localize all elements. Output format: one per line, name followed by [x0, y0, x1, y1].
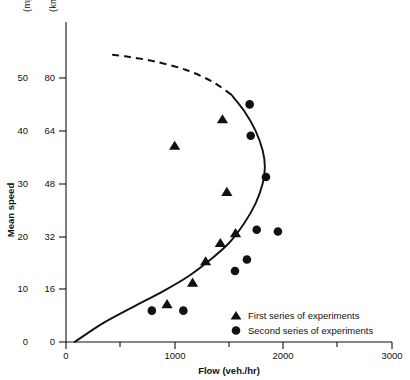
unit-label-kmh: (km/hr) — [47, 0, 58, 12]
y-tick-label-mph-50: 50 — [17, 72, 28, 83]
data-point-series-2 — [231, 267, 240, 276]
y-tick-label-mph-40: 40 — [17, 125, 28, 136]
data-point-series-2 — [148, 306, 157, 315]
legend-label-first-series: First series of experiments — [248, 310, 360, 321]
legend: First series of experiments Second serie… — [231, 310, 374, 336]
y-tick-label-kmh-0: 0 — [50, 336, 55, 347]
fitted-curve-unstable-branch — [107, 54, 231, 94]
legend-circle-icon — [232, 326, 241, 335]
y-tick-label-kmh-64: 64 — [44, 125, 55, 136]
x-axis-title: Flow (veh./hr) — [198, 365, 260, 376]
chart-canvas: 0 16 32 48 64 80 0 10 20 30 40 50 (mph) … — [0, 0, 410, 380]
y-tick-label-mph-10: 10 — [17, 283, 28, 294]
data-point-series-2 — [179, 306, 188, 315]
data-markers-group — [148, 100, 283, 315]
data-point-series-2 — [246, 131, 255, 140]
data-point-series-2 — [274, 227, 283, 236]
y-tick-label-mph-0: 0 — [23, 336, 28, 347]
y-tick-label-kmh-16: 16 — [44, 283, 55, 294]
data-point-series-2 — [252, 226, 261, 235]
x-tick-label-0: 0 — [63, 350, 68, 361]
unit-label-mph: (mph) — [21, 0, 32, 12]
x-tick-label-1000: 1000 — [164, 350, 185, 361]
data-point-series-1 — [169, 141, 180, 150]
data-point-series-1 — [217, 114, 228, 123]
y-tick-label-mph-20: 20 — [17, 231, 28, 242]
y-tick-label-mph-30: 30 — [17, 178, 28, 189]
y-axis-ticks — [59, 78, 66, 342]
data-point-series-2 — [243, 255, 252, 264]
y-tick-label-kmh-48: 48 — [44, 178, 55, 189]
legend-label-second-series: Second series of experiments — [248, 325, 373, 336]
data-point-series-1 — [187, 278, 198, 287]
data-point-series-1 — [221, 187, 232, 196]
x-axis-minor-ticks — [120, 342, 337, 347]
x-tick-label-3000: 3000 — [381, 350, 402, 361]
y-tick-label-kmh-80: 80 — [44, 72, 55, 83]
data-point-series-2 — [262, 173, 271, 182]
legend-triangle-icon — [231, 311, 242, 320]
data-point-series-2 — [245, 100, 254, 109]
data-point-series-1 — [215, 238, 226, 247]
data-point-series-1 — [161, 299, 172, 308]
x-tick-label-2000: 2000 — [272, 350, 293, 361]
y-axis-title: Mean speed — [5, 183, 16, 238]
speed-flow-chart: 0 16 32 48 64 80 0 10 20 30 40 50 (mph) … — [0, 0, 410, 380]
y-tick-label-kmh-32: 32 — [44, 231, 55, 242]
